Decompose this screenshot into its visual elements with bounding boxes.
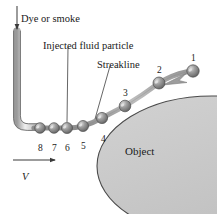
label-dye-or-smoke: Dye or smoke: [21, 14, 80, 25]
particle-number-7: 7: [52, 144, 57, 154]
fluid-particle-3: [119, 100, 131, 112]
label-streakline: Streakline: [97, 60, 140, 71]
leader-line-injected-particle: [67, 47, 68, 122]
fluid-particle-7: [49, 123, 60, 134]
particle-number-3: 3: [123, 89, 128, 99]
streakline-figure: Dye or smoke Injected fluid particle Str…: [0, 0, 217, 214]
particle-number-4: 4: [101, 135, 106, 145]
fluid-particle-2: [153, 77, 165, 89]
fluid-particle-8: [35, 123, 46, 134]
fluid-particle-6: [62, 123, 73, 134]
fluid-particle-5: [78, 121, 89, 132]
figure-canvas: [0, 0, 217, 214]
particle-number-2: 2: [157, 66, 162, 76]
particle-number-6: 6: [65, 144, 70, 154]
leader-line-streakline: [95, 66, 110, 119]
label-injected-fluid-particle: Injected fluid particle: [43, 41, 133, 52]
fluid-particle-4: [96, 112, 107, 123]
particle-number-5: 5: [81, 142, 86, 152]
fluid-particle-1: [187, 65, 199, 77]
particle-number-1: 1: [191, 54, 196, 64]
injection-pipe: [14, 31, 41, 130]
label-object: Object: [125, 146, 154, 157]
particle-number-8: 8: [38, 144, 43, 154]
label-velocity: V: [22, 172, 28, 183]
